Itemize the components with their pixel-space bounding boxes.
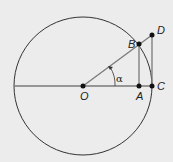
point-A — [137, 84, 142, 89]
unit-circle-diagram: O A B C D α — [0, 0, 173, 162]
label-O: O — [80, 90, 89, 102]
point-D — [150, 33, 155, 38]
point-C — [150, 84, 155, 89]
label-alpha: α — [116, 73, 123, 84]
label-C: C — [157, 80, 165, 92]
point-O — [81, 84, 86, 89]
angle-arc — [110, 67, 115, 86]
point-B — [137, 42, 142, 47]
label-B: B — [128, 38, 135, 50]
angle-arrow-icon — [108, 66, 113, 70]
label-A: A — [135, 90, 143, 102]
label-D: D — [157, 24, 165, 36]
